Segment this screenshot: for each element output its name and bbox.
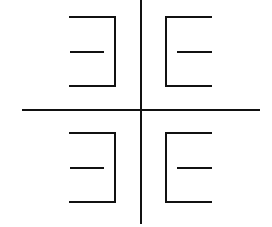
- top-left-reversed-e: [69, 17, 115, 86]
- diagram-canvas: [0, 0, 272, 227]
- top-right-e: [166, 17, 212, 86]
- cross-axes: [22, 0, 260, 224]
- bottom-left-reversed-e: [69, 133, 115, 202]
- bottom-right-e: [166, 133, 212, 202]
- quadrant-brackets-diagram: [0, 0, 272, 227]
